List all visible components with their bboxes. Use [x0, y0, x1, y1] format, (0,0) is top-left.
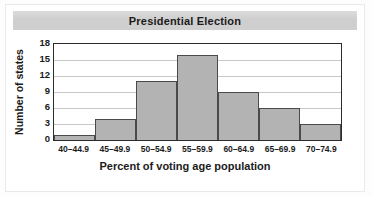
- y-axis-tick-12: 12: [28, 70, 50, 80]
- bar: [54, 135, 95, 140]
- y-axis-tick-3: 3: [28, 118, 50, 128]
- y-axis-tick-6: 6: [28, 102, 50, 112]
- x-axis-tick-label: 70–74.9: [301, 143, 342, 156]
- x-axis-tick-label: 60–64.9: [218, 143, 259, 156]
- y-axis-tick-9: 9: [28, 86, 50, 96]
- x-axis-tick-label: 55–59.9: [177, 143, 218, 156]
- x-axis-tick-label: 65–69.9: [259, 143, 300, 156]
- y-axis-tick-18: 18: [28, 38, 50, 48]
- x-axis-tick-label: 45–49.9: [94, 143, 135, 156]
- bar: [177, 55, 218, 140]
- y-axis-tick-15: 15: [28, 54, 50, 64]
- plot-area: [53, 43, 342, 141]
- bar: [136, 81, 177, 140]
- y-axis-title: Number of states: [12, 43, 26, 141]
- bar: [300, 124, 341, 140]
- bar: [218, 92, 259, 140]
- bar: [95, 119, 136, 140]
- bar-series: [54, 44, 341, 140]
- chart-figure: Presidential Election Number of states 0…: [0, 0, 372, 197]
- x-axis-tick-label: 50–54.9: [136, 143, 177, 156]
- chart-title-band: Presidential Election: [13, 11, 357, 30]
- chart-title: Presidential Election: [129, 15, 241, 27]
- y-axis-tick-0: 0: [28, 134, 50, 144]
- bar: [259, 108, 300, 140]
- x-axis-tick-label: 40–44.9: [53, 143, 94, 156]
- x-axis-title: Percent of voting age population: [13, 160, 357, 172]
- x-axis-tick-labels: 40–44.945–49.950–54.955–59.960–64.965–69…: [53, 143, 342, 156]
- y-axis-tick-labels: 0369121518: [28, 38, 50, 146]
- y-axis-title-text: Number of states: [13, 49, 25, 135]
